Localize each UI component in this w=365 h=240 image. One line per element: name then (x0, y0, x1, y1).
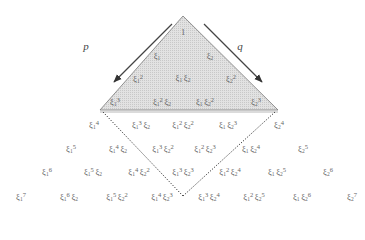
monomial-term: ξ12 ξ23 (194, 144, 215, 155)
monomial-term: ξ25 (298, 144, 308, 155)
monomial-term: ξ12 ξ2 (153, 97, 171, 108)
monomial-term: ξ12 (133, 74, 143, 85)
monomial-term: ξ1 ξ2 (176, 74, 191, 84)
monomial-term: 1 (181, 28, 185, 37)
monomial-term: ξ1 (154, 52, 161, 62)
monomial-term: ξ12 ξ25 (243, 192, 264, 203)
monomial-term: ξ27 (347, 192, 357, 203)
monomial-term: ξ14 ξ2 (109, 144, 127, 155)
monomial-term: ξ13 (110, 97, 120, 108)
monomial-term: ξ1 ξ24 (242, 144, 260, 155)
monomial-term: ξ14 (89, 120, 99, 131)
monomial-term: ξ1 ξ25 (268, 167, 286, 178)
monomial-term: ξ23 (251, 97, 261, 108)
monomial-term: ξ24 (274, 120, 284, 131)
monomial-term: ξ13 ξ24 (198, 192, 219, 203)
arrow-label-p: p (83, 40, 89, 52)
monomial-term: ξ22 (226, 74, 236, 85)
monomial-term: ξ13 ξ2 (132, 120, 150, 131)
monomial-term: ξ12 ξ24 (219, 167, 240, 178)
monomial-term: ξ17 (16, 192, 26, 203)
arrow-label-q: q (237, 40, 243, 52)
monomial-term: ξ13 ξ22 (152, 144, 173, 155)
monomial-term: ξ15 ξ22 (106, 192, 127, 203)
monomial-term: ξ15 ξ2 (84, 167, 102, 178)
monomial-term: ξ14 ξ23 (151, 192, 172, 203)
monomial-term: ξ12 ξ22 (172, 120, 193, 131)
monomial-term: ξ15 (66, 144, 76, 155)
monomial-term: ξ13 ξ23 (172, 167, 193, 178)
monomial-term: ξ2 (207, 52, 214, 62)
monomial-term: ξ16 ξ2 (60, 192, 78, 203)
monomial-term: ξ1 ξ26 (293, 192, 311, 203)
monomial-term: ξ26 (323, 167, 333, 178)
monomial-term: ξ1 ξ22 (196, 97, 214, 108)
monomial-term: ξ1 ξ23 (219, 120, 237, 131)
monomial-term: ξ16 (42, 167, 52, 178)
monomial-term: ξ14 ξ22 (128, 167, 149, 178)
